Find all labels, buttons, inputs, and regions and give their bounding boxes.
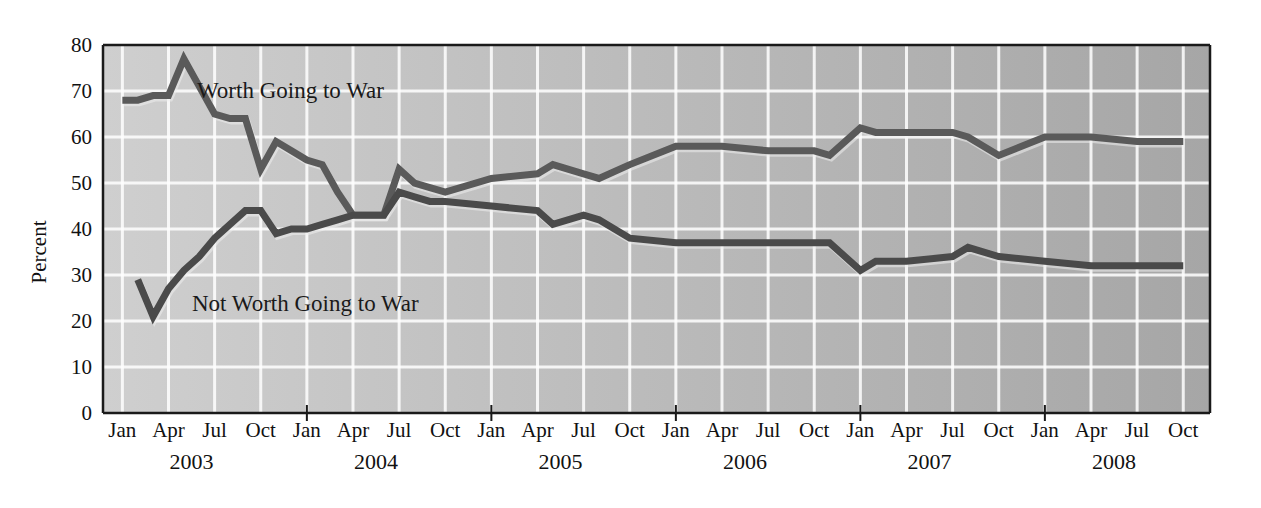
- x-tick-label: Jan: [477, 418, 505, 442]
- y-tick-label: 0: [82, 401, 93, 425]
- x-axis-year-label: 2008: [1092, 449, 1136, 474]
- x-tick-label: Jul: [756, 418, 781, 442]
- y-tick-label: 20: [71, 309, 92, 333]
- y-tick-label: 70: [71, 79, 92, 103]
- x-tick-label: Oct: [984, 418, 1014, 442]
- y-tick-label: 30: [71, 263, 92, 287]
- x-axis-year-label: 2006: [723, 449, 767, 474]
- y-tick-labels: 01020304050607080: [71, 33, 92, 425]
- x-tick-label: Oct: [1168, 418, 1198, 442]
- x-axis-year-label: 2007: [908, 449, 952, 474]
- y-tick-label: 60: [71, 125, 92, 149]
- y-axis-title: Percent: [27, 220, 51, 283]
- x-axis-year-label: 2003: [170, 449, 214, 474]
- x-tick-label: Jul: [1125, 418, 1150, 442]
- x-tick-label: Apr: [706, 418, 739, 442]
- x-tick-label: Jul: [940, 418, 965, 442]
- x-tick-label: Oct: [615, 418, 645, 442]
- x-tick-label: Jan: [293, 418, 321, 442]
- x-tick-label: Apr: [890, 418, 923, 442]
- chart-container: 01020304050607080 JanAprJulOctJanAprJulO…: [0, 0, 1261, 508]
- line-chart: 01020304050607080 JanAprJulOctJanAprJulO…: [0, 0, 1261, 508]
- year-labels: 200320042005200620072008: [170, 449, 1137, 474]
- x-tick-label: Apr: [1075, 418, 1108, 442]
- x-tick-label: Jan: [108, 418, 136, 442]
- x-tick-label: Jan: [662, 418, 690, 442]
- x-tick-labels: JanAprJulOctJanAprJulOctJanAprJulOctJanA…: [108, 418, 1198, 442]
- y-tick-label: 50: [71, 171, 92, 195]
- y-tick-label: 10: [71, 355, 92, 379]
- x-tick-label: Oct: [799, 418, 829, 442]
- x-tick-label: Apr: [152, 418, 185, 442]
- x-axis-year-label: 2004: [354, 449, 398, 474]
- x-tick-label: Oct: [430, 418, 460, 442]
- y-tick-label: 40: [71, 217, 92, 241]
- x-tick-label: Apr: [521, 418, 554, 442]
- x-tick-label: Oct: [246, 418, 276, 442]
- series-annotation-label: Not Worth Going to War: [192, 291, 419, 316]
- x-tick-label: Jul: [387, 418, 412, 442]
- x-tick-label: Jan: [846, 418, 874, 442]
- x-tick-label: Jul: [202, 418, 227, 442]
- y-tick-label: 80: [71, 33, 92, 57]
- x-tick-label: Jul: [571, 418, 596, 442]
- series-annotation-label: Worth Going to War: [197, 78, 384, 103]
- x-axis-year-label: 2005: [539, 449, 583, 474]
- x-tick-label: Jan: [1031, 418, 1059, 442]
- x-tick-label: Apr: [337, 418, 370, 442]
